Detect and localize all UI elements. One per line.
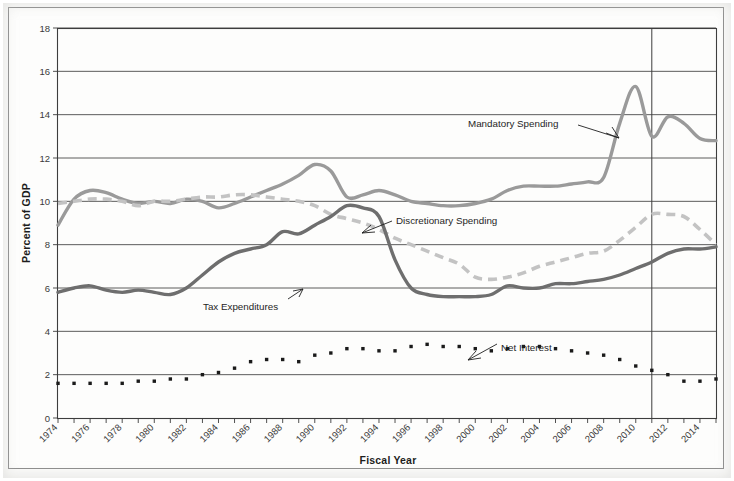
series-marker-net-interest [682, 379, 685, 382]
x-axis-tick-label: 2014 [679, 422, 702, 445]
y-axis-tick-label: 18 [39, 23, 50, 34]
x-axis-tick-label: 1982 [165, 422, 188, 445]
series-marker-net-interest [490, 349, 493, 352]
y-axis-tick-label: 14 [39, 109, 50, 120]
x-axis-tick-label: 1978 [101, 422, 124, 445]
series-marker-net-interest [153, 379, 156, 382]
x-axis-tick-label: 2000 [454, 422, 477, 445]
y-axis-tick-label: 16 [39, 66, 50, 77]
series-marker-net-interest [458, 345, 461, 348]
plot-frame [58, 29, 717, 419]
series-marker-net-interest [650, 369, 653, 372]
x-axis-tick-label: 1986 [229, 422, 252, 445]
x-axis-title: Fiscal Year [360, 454, 417, 466]
series-marker-net-interest [570, 349, 573, 352]
series-marker-net-interest [137, 379, 140, 382]
series-marker-net-interest [104, 382, 107, 385]
series-marker-net-interest [393, 349, 396, 352]
y-axis-title: Percent of GDP [20, 183, 32, 263]
series-line-tax-expenditures [58, 205, 716, 297]
series-marker-net-interest [185, 377, 188, 380]
series-marker-net-interest [409, 345, 412, 348]
chart-figure: 024681012141618 197419761978198019821984… [0, 0, 734, 481]
series-marker-net-interest [698, 379, 701, 382]
series-marker-net-interest [618, 358, 621, 361]
series-marker-net-interest [297, 360, 300, 363]
series-marker-net-interest [281, 358, 284, 361]
series-marker-net-interest [121, 382, 124, 385]
annotation-net-interest: Net Interest [501, 342, 552, 353]
x-axis-tick-label: 2010 [614, 422, 637, 445]
y-axis-tick-label: 10 [39, 196, 50, 207]
x-axis-tick-label: 1988 [261, 422, 284, 445]
series-marker-net-interest [88, 382, 91, 385]
y-axis-tick-label: 8 [45, 239, 50, 250]
series-marker-net-interest [602, 353, 605, 356]
series-marker-net-interest [329, 351, 332, 354]
plot-container: 024681012141618 197419761978198019821984… [0, 0, 734, 481]
series-marker-net-interest [265, 358, 268, 361]
series-marker-net-interest [313, 353, 316, 356]
series-marker-net-interest [425, 343, 428, 346]
x-axis-tick-label: 1984 [197, 422, 220, 445]
y-axis-tick-label: 4 [45, 326, 50, 337]
annotation-mandatory-spending: Mandatory Spending [468, 118, 558, 129]
series-marker-net-interest [586, 351, 589, 354]
series-marker-net-interest [201, 373, 204, 376]
series-marker-net-interest [56, 382, 59, 385]
series-marker-net-interest [169, 377, 172, 380]
data-series-group [56, 86, 717, 385]
series-marker-net-interest [345, 347, 348, 350]
y-axis-tick-label: 6 [45, 283, 50, 294]
annotation-tax-expenditures: Tax Expenditures [203, 301, 278, 312]
chart-svg: 024681012141618 197419761978198019821984… [0, 0, 734, 481]
series-marker-net-interest [361, 347, 364, 350]
series-marker-net-interest [666, 373, 669, 376]
x-axis-tick-label: 2012 [647, 422, 670, 445]
annotation-discretionary-spending: Discretionary Spending [396, 215, 497, 226]
x-axis-tick-label: 1992 [326, 422, 349, 445]
x-axis-tick-label: 2004 [518, 422, 541, 445]
x-axis-tick-label: 2006 [550, 422, 573, 445]
x-axis-tick-label: 2002 [486, 422, 509, 445]
series-marker-net-interest [554, 347, 557, 350]
x-axis-tick-label: 1996 [390, 422, 413, 445]
x-axis-tick-label: 1994 [358, 422, 381, 445]
series-marker-net-interest [249, 360, 252, 363]
series-marker-net-interest [634, 364, 637, 367]
annotation-arrows-group [288, 125, 619, 360]
x-axis-tick-label: 1980 [133, 422, 156, 445]
y-axis-tick-label: 0 [45, 413, 50, 424]
series-marker-net-interest [474, 347, 477, 350]
series-marker-net-interest [441, 345, 444, 348]
series-marker-net-interest [714, 377, 717, 380]
x-axis-tick-label: 1976 [69, 422, 92, 445]
series-marker-net-interest [217, 371, 220, 374]
series-marker-net-interest [72, 382, 75, 385]
series-marker-net-interest [377, 349, 380, 352]
x-axis-tick-label: 1998 [422, 422, 445, 445]
x-axis-tick-label: 2008 [582, 422, 605, 445]
y-axis-tick-label: 2 [45, 369, 50, 380]
y-axis-tick-label: 12 [39, 153, 50, 164]
y-axis-ticks-group: 024681012141618 [39, 23, 58, 424]
series-line-mandatory-spending [58, 86, 716, 225]
x-axis-tick-label: 1990 [293, 422, 316, 445]
x-axis-ticks-group: 1974197619781980198219841986198819901992… [37, 418, 716, 444]
discretionary-arrow-line [362, 221, 392, 233]
series-marker-net-interest [233, 366, 236, 369]
x-axis-tick-label: 1974 [37, 422, 60, 445]
